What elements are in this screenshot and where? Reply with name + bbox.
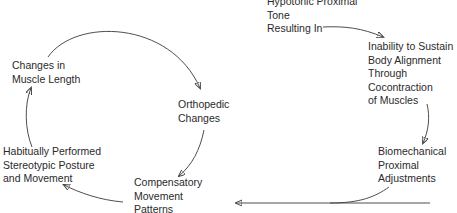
node-line: Movement [134,190,202,204]
node-line: Stereotypic Posture [3,159,101,173]
node-line: Muscle Length [12,73,80,87]
node-line: Changes in [12,59,80,73]
node-orthopedic-changes: Orthopedic Changes [178,98,229,125]
node-line: Resulting In [267,22,357,36]
edge-compensatory-to-habitual [64,185,123,202]
node-line: of Muscles [368,94,453,108]
node-line: Habitually Performed [3,145,101,159]
edge-inability-to-biomechanical [423,104,429,143]
node-line: Proximal [378,159,446,173]
node-line: Changes [178,112,229,126]
node-line: Through [368,67,453,81]
node-line: Inability to Sustain [368,40,453,54]
node-line: Body Alignment [368,54,453,68]
node-habitually-performed: Habitually Performed Stereotypic Posture… [3,145,101,186]
node-line: Tone [267,9,357,23]
node-compensatory-movement: Compensatory Movement Patterns [134,176,202,213]
node-line: Orthopedic [178,98,229,112]
node-line: and Movement [3,172,101,186]
node-hypotonic-proximal-tone: Hypotonic Proximal Tone Resulting In [267,0,357,36]
node-inability-to-sustain: Inability to Sustain Body Alignment Thro… [368,40,453,108]
node-line: Biomechanical [378,145,446,159]
node-line: Adjustments [378,172,446,186]
edge-biomechanical-to-compensatory [236,187,430,203]
edge-habitual-to-muscle-length [26,88,32,147]
edge-orthopedic-to-compensatory [179,130,204,176]
node-line: Hypotonic Proximal [267,0,357,9]
node-changes-in-muscle-length: Changes in Muscle Length [12,59,80,86]
node-line: Compensatory [134,176,202,190]
node-biomechanical-adjustments: Biomechanical Proximal Adjustments [378,145,446,186]
node-line: Patterns [134,203,202,213]
node-line: Cocontraction [368,81,453,95]
